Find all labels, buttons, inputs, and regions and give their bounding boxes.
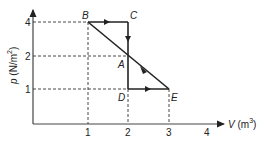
x-tick-4: 4 (204, 127, 210, 138)
arrow-right-icon (145, 86, 151, 92)
arrow-right-icon (104, 19, 110, 25)
x-tick-1: 1 (85, 127, 91, 138)
pv-diagram: 4 2 1 1 2 3 4 B C A D E V (m3) p (N/m2) (0, 0, 266, 143)
x-axis-label: V (m3) (228, 117, 256, 130)
point-a-label: A (117, 59, 125, 70)
y-axis-label: p (N/m2) (6, 47, 19, 85)
svg-text:p (N/m2): p (N/m2) (6, 47, 19, 85)
point-d-label: D (118, 92, 125, 103)
svg-text:V (m3): V (m3) (228, 117, 256, 130)
y-tick-1: 1 (25, 84, 31, 95)
x-tick-3: 3 (166, 127, 172, 138)
y-tick-4: 4 (25, 17, 31, 28)
cycle-path (88, 22, 169, 89)
point-c-label: C (130, 10, 138, 21)
point-b-label: B (82, 10, 89, 21)
point-e-label: E (171, 92, 178, 103)
x-tick-2: 2 (125, 127, 131, 138)
y-tick-2: 2 (25, 51, 31, 62)
arrow-down-icon (125, 36, 131, 42)
